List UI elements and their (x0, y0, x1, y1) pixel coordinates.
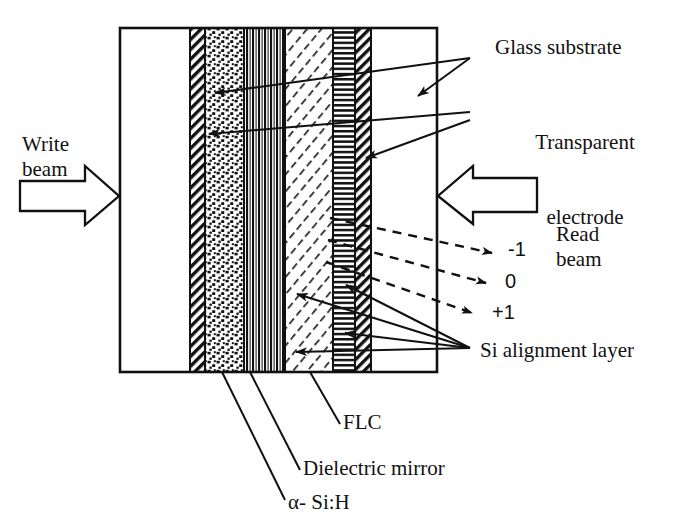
layer-a-si-h (205, 28, 244, 372)
layer-si-alignment (333, 28, 355, 372)
glass-substrate-label: Glass substrate (495, 35, 622, 60)
si-alignment-layer-label: Si alignment layer (480, 338, 634, 363)
order-zero-label: 0 (505, 270, 516, 293)
a-si-h-label: α- Si:H (288, 490, 350, 515)
flc-label: FLC (343, 410, 382, 435)
layer-transparent-electrode-right (355, 28, 371, 372)
write-beam-label: Write beam (22, 82, 69, 232)
dielectric-mirror-label: Dielectric mirror (303, 456, 445, 481)
leader-flc (310, 372, 340, 424)
order-plus-one-label: +1 (492, 301, 515, 324)
layer-transparent-electrode-left (190, 28, 205, 372)
layer-dielectric-mirror (244, 28, 285, 372)
leader-a-si-h (222, 372, 285, 500)
layer-glass-substrate-left (120, 28, 190, 372)
figure-canvas: Write beam Read beam Glass substrate Tra… (0, 0, 697, 526)
leader-dielectric-mirror (250, 372, 300, 470)
order-minus-one-label: -1 (508, 238, 526, 261)
layer-stack (120, 28, 437, 372)
